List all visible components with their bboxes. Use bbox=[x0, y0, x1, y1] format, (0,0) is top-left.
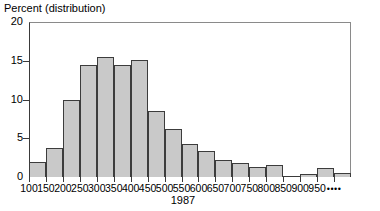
histogram-bar bbox=[266, 165, 283, 177]
histogram-bar bbox=[232, 163, 249, 177]
x-axis-title: 1987 bbox=[0, 194, 380, 207]
y-axis-tick-label: 0 bbox=[1, 171, 23, 182]
histogram-bar bbox=[249, 167, 266, 177]
histogram-bar bbox=[334, 173, 351, 177]
y-axis-tick-label: 10 bbox=[1, 94, 23, 105]
y-axis-tick-label: 5 bbox=[1, 132, 23, 143]
x-axis-tick-label: •••• bbox=[323, 183, 345, 195]
bars-layer bbox=[29, 22, 351, 177]
histogram-chart: Percent (distribution) 05101520 1987 100… bbox=[0, 0, 380, 211]
y-axis: 05101520 bbox=[0, 0, 23, 211]
y-axis-tick-label: 20 bbox=[1, 16, 23, 27]
histogram-bar bbox=[131, 60, 148, 177]
y-axis-tick bbox=[23, 61, 30, 62]
y-axis-tick bbox=[23, 100, 30, 101]
histogram-bar bbox=[46, 148, 63, 177]
histogram-bar bbox=[63, 100, 80, 178]
x-axis-tick bbox=[334, 177, 335, 182]
histogram-bar bbox=[300, 174, 317, 177]
histogram-bar bbox=[317, 168, 334, 177]
histogram-bar bbox=[80, 65, 97, 177]
histogram-bar bbox=[97, 57, 114, 177]
histogram-bar bbox=[198, 151, 215, 177]
histogram-bar bbox=[182, 144, 199, 177]
y-axis-tick-label: 15 bbox=[1, 55, 23, 66]
histogram-bar bbox=[215, 160, 232, 177]
x-axis-title-text: 1987 bbox=[171, 194, 195, 206]
histogram-bar bbox=[29, 162, 46, 178]
y-axis-tick bbox=[23, 138, 30, 139]
histogram-bar bbox=[165, 129, 182, 177]
histogram-bar bbox=[148, 111, 165, 177]
histogram-bar bbox=[114, 65, 131, 177]
